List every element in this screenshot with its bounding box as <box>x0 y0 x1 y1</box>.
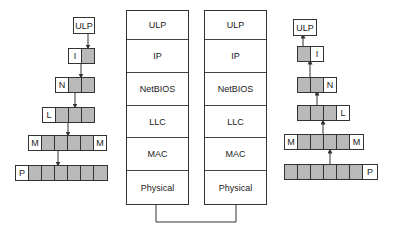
right-payload-cell <box>310 164 324 180</box>
right-stack-layer-netbios: NetBIOS <box>205 72 266 105</box>
right-p-header: P <box>362 164 378 180</box>
left-m-header: M <box>28 135 42 151</box>
right-m-trailer: M <box>349 134 364 150</box>
right-l-header: L <box>336 105 350 121</box>
right-m-header: M <box>284 134 298 150</box>
left-stack-layer-ip: IP <box>127 39 188 72</box>
right-payload-cell <box>349 164 363 180</box>
left-payload-cell <box>81 77 95 93</box>
left-payload-cell <box>55 107 69 123</box>
left-payload-cell <box>80 135 94 151</box>
right-i-header: I <box>310 46 324 62</box>
left-payload-cell <box>81 107 95 123</box>
left-m-trailer: M <box>93 135 107 151</box>
left-payload-cell <box>41 165 55 181</box>
right-payload-cell <box>310 134 324 150</box>
left-payload-cell <box>68 77 82 93</box>
right-ulp-box: ULP <box>293 19 317 36</box>
left-payload-cell <box>67 135 81 151</box>
right-payload-cell <box>336 164 350 180</box>
right-payload-cell <box>323 134 337 150</box>
left-payload-cell <box>67 165 81 181</box>
right-payload-cell <box>323 105 337 121</box>
left-payload-cell <box>80 165 94 181</box>
left-stack-layer-physical: Physical <box>127 170 188 204</box>
left-payload-cell <box>68 107 82 123</box>
right-payload-cell <box>297 105 311 121</box>
right-payload-cell <box>297 164 311 180</box>
left-payload-cell <box>93 165 108 181</box>
left-ulp-box: ULP <box>73 17 95 34</box>
left-stack-layer-netbios: NetBIOS <box>127 72 188 105</box>
left-payload-cell <box>54 135 68 151</box>
left-l-header: L <box>42 107 56 123</box>
right-stack-layer-physical: Physical <box>205 170 266 204</box>
right-stack-layer-llc: LLC <box>205 105 266 137</box>
left-p-header: P <box>15 165 29 181</box>
right-protocol-stack: ULP IP NetBIOS LLC MAC Physical <box>204 10 267 205</box>
left-stack-layer-llc: LLC <box>127 105 188 137</box>
left-n-header: N <box>55 77 69 93</box>
right-payload-cell <box>310 105 324 121</box>
left-payload-cell <box>54 165 68 181</box>
right-payload-cell <box>297 46 311 62</box>
left-payload-cell <box>81 48 95 64</box>
left-stack-layer-mac: MAC <box>127 137 188 170</box>
left-protocol-stack: ULP IP NetBIOS LLC MAC Physical <box>126 10 189 205</box>
left-i-header: I <box>68 48 82 64</box>
right-payload-cell <box>323 164 337 180</box>
right-payload-cell <box>297 134 311 150</box>
left-payload-cell <box>41 135 55 151</box>
right-stack-layer-ulp: ULP <box>205 11 266 39</box>
left-stack-layer-ulp: ULP <box>127 11 188 39</box>
right-n-header: N <box>323 77 337 93</box>
right-payload-cell <box>284 164 298 180</box>
right-payload-cell <box>336 134 350 150</box>
physical-link-line <box>156 204 236 222</box>
right-stack-layer-mac: MAC <box>205 137 266 170</box>
right-payload-cell <box>310 77 324 93</box>
right-stack-layer-ip: IP <box>205 39 266 72</box>
right-payload-cell <box>297 77 311 93</box>
left-payload-cell <box>28 165 42 181</box>
